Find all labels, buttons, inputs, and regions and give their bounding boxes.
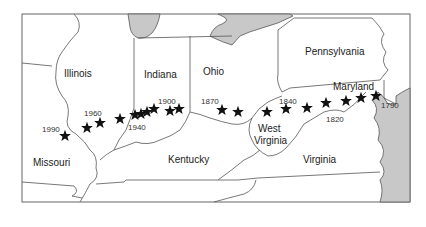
year-label: 1990	[42, 125, 60, 134]
year-label: 1960	[84, 109, 102, 118]
map-frame	[22, 14, 410, 202]
state-label: Indiana	[144, 69, 177, 80]
year-label: 1820	[326, 115, 344, 124]
year-label: 1790	[381, 101, 399, 110]
state-label: Pennsylvania	[305, 46, 365, 57]
state-label: Maryland	[333, 81, 374, 92]
state-label: Ohio	[203, 66, 225, 77]
state-label: Virginia	[254, 135, 288, 146]
state-label: West	[258, 123, 281, 134]
year-label: 1900	[158, 97, 176, 106]
state-label: Illinois	[64, 68, 92, 79]
state-label: Kentucky	[168, 154, 209, 165]
state-label: Virginia	[303, 154, 337, 165]
year-label: 1940	[128, 123, 146, 132]
year-label: 1840	[279, 97, 297, 106]
year-label: 1870	[201, 97, 219, 106]
state-label: Missouri	[33, 157, 70, 168]
population-center-map: IllinoisIndianaOhioPennsylvaniaMarylandW…	[0, 0, 426, 227]
